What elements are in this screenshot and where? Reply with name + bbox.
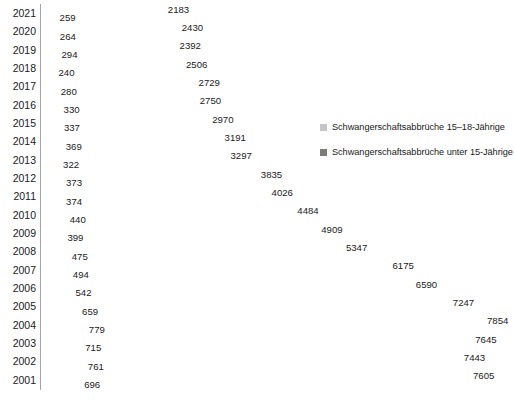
- bar-value-label: 3835: [257, 168, 282, 179]
- bar-group: 20037645715: [0, 334, 514, 352]
- category-label: 2013: [0, 151, 36, 169]
- bar-value-label: 779: [85, 324, 105, 335]
- bar-value-label: 240: [55, 67, 75, 78]
- bar-series-b: 280: [41, 87, 57, 95]
- bar-series-b: 322: [41, 160, 59, 168]
- bar-series-b: 294: [41, 50, 58, 58]
- bar-value-label: 2729: [195, 77, 220, 88]
- bar-value-label: 494: [69, 269, 89, 280]
- bar-group: 20027443761: [0, 352, 514, 370]
- bar-group: 20057247659: [0, 297, 514, 315]
- bar-series-b: 696: [41, 380, 80, 388]
- category-label: 2008: [0, 242, 36, 260]
- legend-item-series-a: Schwangerschaftsabbrüche 15–18-Jährige: [320, 122, 514, 132]
- category-label: 2018: [0, 59, 36, 77]
- bar-series-b: 542: [41, 289, 72, 297]
- bar-series-b: 399: [41, 234, 63, 242]
- bar-series-a: 7854: [41, 317, 483, 325]
- bar-value-label: 322: [59, 159, 79, 170]
- bar-value-label: 330: [60, 104, 80, 115]
- legend-swatch-icon-series-b: [320, 149, 327, 156]
- category-label: 2003: [0, 334, 36, 352]
- bar-group: 20202430264: [0, 22, 514, 40]
- bar-series-b: 240: [41, 69, 55, 77]
- bar-value-label: 2430: [178, 22, 203, 33]
- bar-value-label: 3191: [221, 131, 246, 142]
- bar-value-label: 761: [84, 360, 104, 371]
- category-label: 2002: [0, 352, 36, 370]
- bar-value-label: 696: [80, 378, 100, 389]
- bar-value-label: 259: [56, 12, 76, 23]
- category-label: 2005: [0, 297, 36, 315]
- bar-value-label: 542: [72, 287, 92, 298]
- bar-value-label: 2392: [176, 40, 201, 51]
- bar-value-label: 4909: [317, 223, 342, 234]
- plot-area: 2021218325920202430264201923922942018250…: [0, 0, 514, 401]
- category-label: 2007: [0, 261, 36, 279]
- bar-series-a: 6590: [41, 280, 412, 288]
- bar-value-label: 2506: [182, 58, 207, 69]
- bar-group: 20192392294: [0, 41, 514, 59]
- category-label: 2012: [0, 169, 36, 187]
- bar-value-label: 475: [68, 250, 88, 261]
- bar-value-label: 6590: [412, 278, 437, 289]
- bar-value-label: 373: [62, 177, 82, 188]
- category-label: 2020: [0, 22, 36, 40]
- bar-value-label: 2970: [208, 113, 233, 124]
- bar-series-a: 7247: [41, 298, 449, 306]
- bar-value-label: 2750: [196, 95, 221, 106]
- category-label: 2019: [0, 41, 36, 59]
- category-label: 2009: [0, 224, 36, 242]
- bar-group: 20172729280: [0, 77, 514, 95]
- bar-value-label: 369: [62, 140, 82, 151]
- bar-value-label: 294: [58, 49, 78, 60]
- bar-series-b: 374: [41, 197, 62, 205]
- category-label: 2014: [0, 132, 36, 150]
- bar-group: 20104484440: [0, 206, 514, 224]
- bar-series-b: 369: [41, 142, 62, 150]
- bar-series-b: 259: [41, 14, 56, 22]
- category-label: 2011: [0, 187, 36, 205]
- category-label: 2004: [0, 316, 36, 334]
- bar-series-b: 337: [41, 124, 60, 132]
- category-label: 2016: [0, 96, 36, 114]
- category-label: 2006: [0, 279, 36, 297]
- bar-value-label: 7247: [449, 296, 474, 307]
- category-label: 2010: [0, 206, 36, 224]
- bar-series-b: 779: [41, 325, 85, 333]
- bar-group: 20162750330: [0, 96, 514, 114]
- bar-group: 20085347475: [0, 242, 514, 260]
- legend-label-series-a: Schwangerschaftsabbrüche 15–18-Jährige: [332, 122, 505, 132]
- bar-value-label: 264: [56, 30, 76, 41]
- bar-series-b: 330: [41, 105, 60, 113]
- bar-series-a: 7443: [41, 353, 460, 361]
- bar-group: 20047854779: [0, 316, 514, 334]
- category-label: 2001: [0, 371, 36, 389]
- bar-series-b: 264: [41, 32, 56, 40]
- bar-series-a: 6175: [41, 262, 389, 270]
- bar-group: 20212183259: [0, 4, 514, 22]
- bar-series-b: 440: [41, 215, 66, 223]
- bar-value-label: 7443: [460, 351, 485, 362]
- bar-value-label: 6175: [389, 260, 414, 271]
- category-label: 2017: [0, 77, 36, 95]
- bar-value-label: 715: [81, 342, 101, 353]
- bar-value-label: 374: [62, 195, 82, 206]
- bar-value-label: 4026: [268, 186, 293, 197]
- bar-value-label: 399: [63, 232, 83, 243]
- bar-value-label: 3297: [227, 150, 252, 161]
- bar-group: 20017605696: [0, 371, 514, 389]
- bar-series-b: 373: [41, 179, 62, 187]
- bar-value-label: 2183: [164, 3, 189, 14]
- bar-group: 20066590542: [0, 279, 514, 297]
- bar-value-label: 5347: [342, 241, 367, 252]
- bar-series-b: 715: [41, 344, 81, 352]
- legend-item-series-b: Schwangerschaftsabbrüche unter 15-Jährig…: [320, 147, 514, 157]
- bar-value-label: 659: [78, 305, 98, 316]
- legend-label-series-b: Schwangerschaftsabbrüche unter 15-Jährig…: [332, 147, 513, 157]
- bar-value-label: 7605: [469, 370, 494, 381]
- bar-group: 20182506240: [0, 59, 514, 77]
- legend-swatch-icon-series-a: [320, 124, 327, 131]
- bar-series-a: 7605: [41, 371, 469, 379]
- bar-group: 20114026374: [0, 187, 514, 205]
